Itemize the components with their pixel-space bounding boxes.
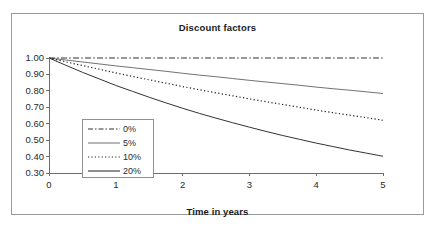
- legend-swatch-solid-thin-icon: [87, 137, 121, 149]
- x-axis-tick-label: 5: [368, 179, 398, 190]
- x-axis-tick-label: 4: [301, 179, 331, 190]
- legend-label: 10%: [123, 152, 141, 162]
- chart-legend: 0% 5% 10% 20%: [82, 119, 154, 178]
- chart-container: Discount factors 1.000.900.800.700.600.5…: [0, 0, 434, 229]
- y-axis-tick-label: 0.50: [11, 134, 44, 145]
- legend-swatch-dash-dot-icon: [87, 123, 121, 135]
- x-axis-title: Time in years: [12, 206, 423, 217]
- legend-label: 0%: [123, 124, 136, 134]
- x-axis-tick-label: 0: [34, 179, 64, 190]
- y-axis-tick-label: 0.80: [11, 85, 44, 96]
- legend-item-0: 0%: [83, 122, 153, 136]
- plot-area: [12, 14, 425, 216]
- legend-item-2: 10%: [83, 150, 153, 164]
- legend-swatch-dotted-icon: [87, 151, 121, 163]
- x-axis-tick-label: 2: [168, 179, 198, 190]
- y-axis-tick-label: 0.90: [11, 68, 44, 79]
- x-axis-tick-label: 3: [234, 179, 264, 190]
- legend-item-3: 20%: [83, 164, 153, 178]
- series-line-10pct: [49, 58, 383, 120]
- series-line-5pct: [49, 58, 383, 93]
- legend-item-1: 5%: [83, 136, 153, 150]
- y-axis-tick-label: 1.00: [11, 52, 44, 63]
- y-axis-tick-label: 0.30: [11, 167, 44, 178]
- legend-label: 20%: [123, 166, 141, 176]
- legend-label: 5%: [123, 138, 136, 148]
- y-axis-tick-label: 0.60: [11, 118, 44, 129]
- x-axis-tick-label: 1: [101, 179, 131, 190]
- legend-swatch-solid-icon: [87, 165, 121, 177]
- chart-frame: Discount factors 1.000.900.800.700.600.5…: [11, 13, 424, 215]
- y-axis-tick-label: 0.70: [11, 101, 44, 112]
- y-axis-tick-label: 0.40: [11, 151, 44, 162]
